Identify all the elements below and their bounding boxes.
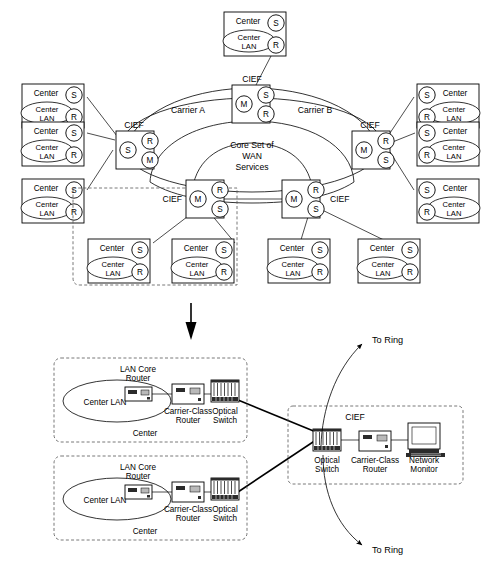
center-lan-line1: Center [102, 260, 125, 269]
center-box-left-3[interactable]: Center Center LAN S R [21, 179, 84, 223]
carrier-class-router-icon [359, 431, 391, 451]
center-lan-line1: Center [36, 200, 59, 209]
node-r-label: R [263, 110, 269, 119]
optical-switch-label-line1: Optical [212, 407, 238, 416]
center-lan-line1: Center [36, 143, 59, 152]
center-title: Center [443, 184, 468, 193]
port-s-label: S [317, 246, 323, 255]
center-lan-line1: Center [238, 33, 261, 42]
node-s-label: S [217, 205, 223, 214]
center-box-left-2[interactable]: Center Center LAN S R [21, 122, 84, 166]
carrier-class-router-icon [172, 384, 204, 404]
node-r-label: R [313, 186, 319, 195]
center-lan-line2: LAN [376, 269, 391, 278]
center-box-right-1[interactable]: Center Center LAN S R [417, 84, 480, 128]
lan-core-router-label-line1: LAN Core [120, 463, 156, 472]
node-m-label: M [241, 100, 248, 109]
center-detail-group-2[interactable]: Center LAN LAN Core Router Carrier-Class… [54, 456, 247, 540]
center-title: Center [236, 17, 261, 26]
center-title: Center [370, 244, 395, 253]
node-s-label: S [313, 205, 319, 214]
center-box-left-1[interactable]: Center Center LAN S R [21, 84, 84, 128]
carrier-b-label: Carrier B [298, 105, 333, 115]
cief-node-left[interactable]: CIEF S R M [116, 120, 158, 169]
lan-core-router-label-line2: Router [126, 374, 151, 383]
center-lan-label: Center LAN [84, 398, 127, 407]
network-monitor-label-line2: Monitor [410, 465, 438, 474]
link-center1-to-cief [238, 400, 316, 432]
optical-switch-icon [211, 478, 239, 500]
cief-node-right[interactable]: CIEF M R S [352, 120, 394, 169]
center-lan-line1: Center [443, 105, 466, 114]
node-r-label: R [383, 137, 389, 146]
carrier-class-router-label-line1: Carrier-Class [164, 407, 212, 416]
diagram-canvas: Core Set of WAN Services Carrier A Carri… [0, 0, 501, 568]
cief-detail-block[interactable]: CIEF [288, 406, 463, 484]
center-lan-line1: Center [372, 260, 395, 269]
carrier-class-router-label-line2: Router [363, 465, 388, 474]
cief-node-bottom-right[interactable]: CIEF M R S [282, 180, 350, 218]
cief-label: CIEF [124, 120, 144, 130]
port-s-label: S [71, 91, 77, 100]
port-s-label: S [137, 246, 143, 255]
cief-node-bottom-left[interactable]: CIEF M R S [162, 180, 228, 218]
carrier-class-router-label-line2: Router [176, 416, 201, 425]
port-s-label: S [71, 129, 77, 138]
port-r-label: R [407, 268, 413, 277]
optical-switch-icon [211, 380, 239, 402]
lan-core-router-label-line2: Router [126, 472, 151, 481]
node-s-label: S [383, 156, 389, 165]
center-box-bottom-1[interactable]: Center Center LAN S R [87, 239, 150, 283]
port-r-label: R [424, 113, 430, 122]
port-r-label: R [273, 41, 279, 50]
port-r-label: R [137, 268, 143, 277]
center-title: Center [34, 184, 59, 193]
cief-label: CIEF [330, 194, 350, 204]
center-lan-line2: LAN [286, 269, 301, 278]
port-s-label: S [407, 246, 413, 255]
cief-label: CIEF [162, 194, 182, 204]
center-box-right-3[interactable]: Center Center LAN S R [417, 179, 480, 223]
center-box-bottom-2[interactable]: Center Center LAN S R [171, 239, 234, 283]
lan-core-router-icon [125, 387, 152, 401]
carrier-class-router-label-line1: Carrier-Class [351, 456, 399, 465]
port-r-label: R [424, 208, 430, 217]
upper-section: Core Set of WAN Services Carrier A Carri… [21, 12, 480, 285]
center-box-top[interactable]: Center Center LAN S R [223, 12, 286, 56]
center-group-label: Center [133, 527, 158, 536]
cief-node-top[interactable]: CIEF M S R [232, 74, 274, 123]
center-box-bottom-3[interactable]: Center Center LAN S R [267, 239, 330, 283]
center-detail-group-1[interactable]: Center LAN LAN Core Router Carrier-Class… [54, 358, 247, 442]
center-box-bottom-4[interactable]: Center Center LAN S R [357, 239, 420, 283]
cief-label: CIEF [360, 120, 380, 130]
center-lan-line1: Center [443, 143, 466, 152]
cief-label: CIEF [242, 74, 262, 84]
cief-block-label: CIEF [345, 412, 365, 422]
center-title: Center [443, 89, 468, 98]
center-lan-line1: Center [282, 260, 305, 269]
optical-switch-label-line1: Optical [212, 505, 238, 514]
network-monitor-label-line1: Network [409, 456, 440, 465]
network-monitor-icon [406, 423, 445, 457]
core-set-label-line3: Services [236, 162, 269, 172]
core-set-label-line1: Core Set of [230, 140, 274, 150]
port-r-label: R [71, 113, 77, 122]
lan-core-router-icon [125, 485, 152, 499]
center-box-right-2[interactable]: Center Center LAN S R [417, 122, 480, 166]
node-m-label: M [291, 195, 298, 204]
carrier-class-router-label-line2: Router [176, 514, 201, 523]
to-ring-label-top: To Ring [372, 335, 403, 345]
center-title: Center [34, 127, 59, 136]
port-r-label: R [317, 268, 323, 277]
optical-switch-label-line2: Switch [213, 416, 238, 425]
center-lan-line1: Center [443, 200, 466, 209]
center-lan-line2: LAN [40, 152, 55, 161]
to-ring-label-bottom: To Ring [372, 545, 403, 555]
carrier-class-router-icon [172, 482, 204, 502]
center-lan-line2: LAN [40, 209, 55, 218]
node-m-label: M [195, 195, 202, 204]
node-m-label: M [361, 146, 368, 155]
lower-section: Center LAN LAN Core Router Carrier-Class… [54, 335, 463, 555]
optical-switch-label-line2: Switch [315, 465, 340, 474]
optical-switch-label-line1: Optical [314, 456, 340, 465]
